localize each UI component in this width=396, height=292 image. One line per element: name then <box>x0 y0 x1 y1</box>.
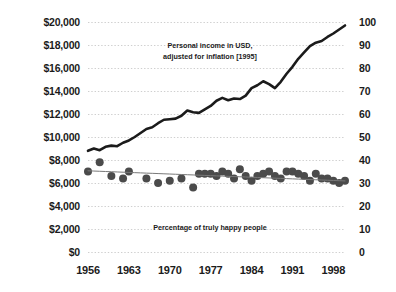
y-axis-left-tick-label: $4,000 <box>49 201 80 212</box>
scatter-point <box>107 172 115 180</box>
x-axis-tick-label: 1998 <box>303 265 363 276</box>
y-axis-right-tick-label: 30 <box>359 178 370 189</box>
y-axis-right-tick-label: 60 <box>359 109 370 120</box>
scatter-point <box>189 184 197 192</box>
scatter-point <box>154 179 162 187</box>
y-axis-left-tick-label: $20,000 <box>43 17 80 28</box>
chart-annotation-happiness-annotation: Percentage of truly happy people <box>100 222 320 233</box>
y-axis-left-tick-label: $16,000 <box>43 63 80 74</box>
scatter-point <box>230 174 238 182</box>
scatter-point <box>177 174 185 182</box>
annotation-line: adjusted for inflation [1995] <box>100 51 320 62</box>
scatter-point <box>306 177 314 185</box>
y-axis-left-tick-label: $10,000 <box>43 132 80 143</box>
scatter-point <box>142 174 150 182</box>
scatter-point <box>96 158 104 166</box>
scatter-point <box>166 177 174 185</box>
y-axis-left-tick-label: $2,000 <box>49 224 80 235</box>
y-axis-left-tick-label: $14,000 <box>43 86 80 97</box>
scatter-point <box>125 168 133 176</box>
chart-container: $0$2,000$4,000$6,000$8,000$10,000$12,000… <box>0 0 396 292</box>
scatter-point <box>236 165 244 173</box>
y-axis-left-tick-label: $18,000 <box>43 40 80 51</box>
y-axis-right-tick-label: 100 <box>359 17 376 28</box>
y-axis-right-tick-label: 90 <box>359 40 370 51</box>
y-axis-right-tick-label: 10 <box>359 224 370 235</box>
y-axis-right-tick-label: 20 <box>359 201 370 212</box>
annotation-line: Percentage of truly happy people <box>100 222 320 233</box>
y-axis-left-tick-label: $6,000 <box>49 178 80 189</box>
y-axis-right-tick-label: 50 <box>359 132 370 143</box>
scatter-point <box>84 168 92 176</box>
chart-annotation-income-annotation: Personal income in USD,adjusted for infl… <box>100 40 320 62</box>
y-axis-left-tick-label: $0 <box>69 247 80 258</box>
y-axis-right-tick-label: 40 <box>359 155 370 166</box>
y-axis-right-tick-label: 0 <box>359 247 365 258</box>
annotation-line: Personal income in USD, <box>100 40 320 51</box>
y-axis-left-tick-label: $12,000 <box>43 109 80 120</box>
scatter-point <box>119 174 127 182</box>
y-axis-right-tick-label: 80 <box>359 63 370 74</box>
y-axis-left-tick-label: $8,000 <box>49 155 80 166</box>
y-axis-right-tick-label: 70 <box>359 86 370 97</box>
